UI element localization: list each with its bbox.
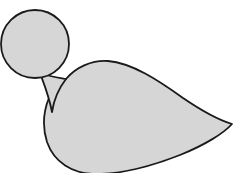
bird-silhouette-drawing [0,0,240,173]
figure-canvas: Bird silhouette line drawing Monochrome … [0,0,240,173]
bird-head-shape [1,10,69,78]
